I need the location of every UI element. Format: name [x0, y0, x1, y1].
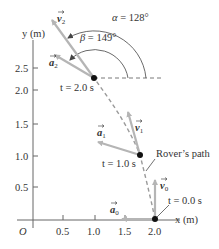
y-tick-1-5: 1.5 [15, 119, 28, 130]
x-tick-0-5: 0.5 [56, 226, 69, 237]
y-tick-0-5: 0.5 [15, 182, 28, 193]
path-leader [146, 159, 155, 171]
point-t2 [91, 75, 97, 81]
time-label-t2: t = 2.0 s [60, 82, 94, 93]
x-tick-1-0: 1.0 [87, 226, 100, 237]
x-tick-1-5: 1.5 [118, 226, 131, 237]
v2-label: v2 [57, 13, 66, 26]
time-label-t1: t = 1.0 s [102, 158, 136, 169]
a2-vector [55, 55, 94, 78]
y-axis-label: y (m) [22, 28, 46, 40]
y-axis [33, 40, 38, 228]
y-tick-2-5: 2.5 [15, 63, 28, 74]
v0-label: v0 [160, 180, 169, 193]
t0-leader [157, 205, 169, 217]
x-axis-label: x (m) [175, 214, 199, 226]
a0-label: a0 [110, 204, 119, 217]
v1-label: v1 [135, 122, 144, 135]
rover-path [94, 78, 155, 219]
alpha-label: α = 128° [112, 12, 149, 23]
x-tick-2-0: 2.0 [148, 226, 161, 237]
beta-arc [70, 50, 128, 78]
v1-vector [128, 112, 140, 155]
y-tick-1-0: 1.0 [15, 151, 28, 162]
a2-label: a2 [49, 57, 58, 70]
a1-label: a1 [97, 127, 106, 140]
point-t1 [137, 152, 143, 158]
v2-vector [52, 20, 94, 78]
beta-label: β = 149° [79, 32, 116, 43]
y-tick-2-0: 2.0 [15, 85, 28, 96]
origin-label: O [19, 226, 27, 237]
time-label-t0: t = 0.0 s [168, 195, 202, 206]
rover-diagram: y (m) 2.5 2.0 1.5 1.0 0.5 O 0.5 1.0 1.5 … [0, 0, 219, 249]
a1-vector [98, 142, 140, 155]
rover-path-label: Rover’s path [156, 148, 211, 159]
